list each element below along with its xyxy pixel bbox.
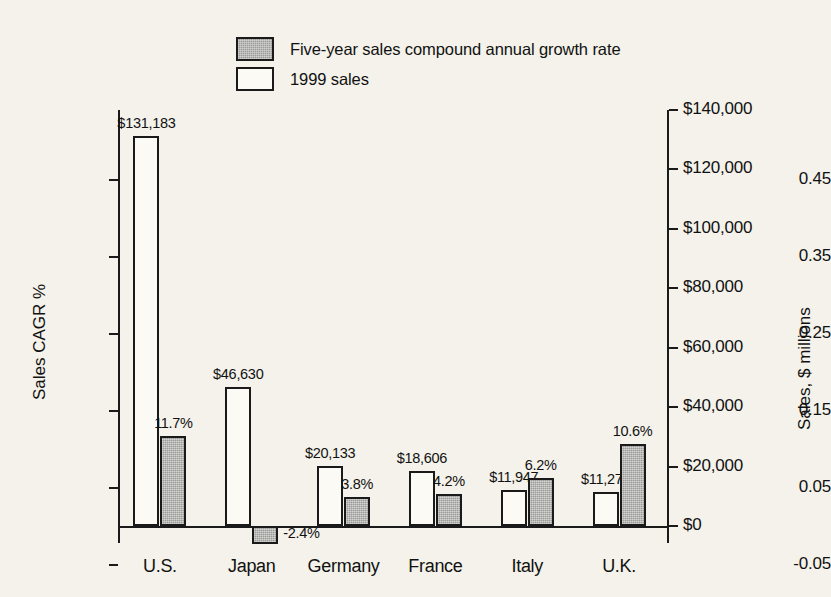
bar-label-sales: $20,133 xyxy=(305,445,355,461)
bar-label-sales: $131,183 xyxy=(117,115,175,131)
left-tick-mark xyxy=(109,256,118,258)
right-tick-mark xyxy=(669,525,678,527)
bar-label-cagr: 6.2% xyxy=(525,457,557,473)
right-tick-label: $0 xyxy=(683,515,702,535)
bar-sales-italy xyxy=(501,490,527,526)
category-label: Italy xyxy=(511,556,543,577)
bar-sales-us xyxy=(133,136,159,526)
bar-label-sales: $46,630 xyxy=(213,366,263,382)
legend-item-cagr: Five-year sales compound annual growth r… xyxy=(236,34,666,64)
legend-label-sales: 1999 sales xyxy=(290,70,369,89)
chart-legend: Five-year sales compound annual growth r… xyxy=(236,34,666,94)
right-tick-mark xyxy=(669,466,678,468)
right-tick-label: $100,000 xyxy=(683,218,752,238)
left-tick-label: -0.05 xyxy=(727,554,831,574)
right-tick-label: $140,000 xyxy=(683,99,752,119)
bar-sales-uk xyxy=(593,492,619,526)
right-tick-label: $80,000 xyxy=(683,277,743,297)
left-tick-mark xyxy=(109,487,118,489)
bar-label-sales: $18,606 xyxy=(397,450,447,466)
right-tick-mark xyxy=(669,287,678,289)
plot-area: $131,18311.7%$46,630-2.4%$20,1333.8%$18,… xyxy=(118,110,669,543)
bar-sales-japan xyxy=(225,387,251,526)
left-tick-mark xyxy=(109,564,118,566)
category-label: U.K. xyxy=(602,556,636,577)
right-tick-label: $60,000 xyxy=(683,337,743,357)
bar-cagr-italy xyxy=(528,478,554,526)
category-label: U.S. xyxy=(143,556,177,577)
right-tick-mark xyxy=(669,228,678,230)
legend-label-cagr: Five-year sales compound annual growth r… xyxy=(290,40,620,59)
category-label: France xyxy=(408,556,462,577)
right-tick-mark xyxy=(669,347,678,349)
bar-cagr-uk xyxy=(620,444,646,526)
category-label: Germany xyxy=(308,556,380,577)
chart-figure: Five-year sales compound annual growth r… xyxy=(0,0,831,597)
left-tick-mark xyxy=(109,333,118,335)
right-tick-label: $120,000 xyxy=(683,158,752,178)
right-tick-mark xyxy=(669,168,678,170)
bar-cagr-france xyxy=(436,494,462,526)
right-tick-label: $40,000 xyxy=(683,396,743,416)
bar-cagr-japan xyxy=(252,526,278,544)
left-tick-label: 0.05 xyxy=(727,477,831,497)
legend-item-sales: 1999 sales xyxy=(236,64,666,94)
right-tick-mark xyxy=(669,406,678,408)
bar-label-cagr: 4.2% xyxy=(433,473,465,489)
bar-label-cagr: 11.7% xyxy=(154,415,193,431)
bar-label-cagr: 3.8% xyxy=(341,476,373,492)
category-label: Japan xyxy=(228,556,276,577)
legend-swatch-sales xyxy=(236,67,274,91)
bar-sales-france xyxy=(409,471,435,526)
left-tick-mark xyxy=(109,179,118,181)
bar-cagr-germany xyxy=(344,497,370,526)
right-tick-mark xyxy=(669,109,678,111)
bar-sales-germany xyxy=(317,466,343,526)
left-tick-mark xyxy=(109,410,118,412)
legend-swatch-cagr xyxy=(236,37,274,61)
bar-label-cagr: -2.4% xyxy=(283,525,319,541)
bar-label-cagr: 10.6% xyxy=(613,423,653,439)
bar-cagr-us xyxy=(160,436,186,526)
left-tick-label: 0.35 xyxy=(727,246,831,266)
right-tick-label: $20,000 xyxy=(683,456,743,476)
left-axis-title: Sales CAGR % xyxy=(30,284,50,400)
